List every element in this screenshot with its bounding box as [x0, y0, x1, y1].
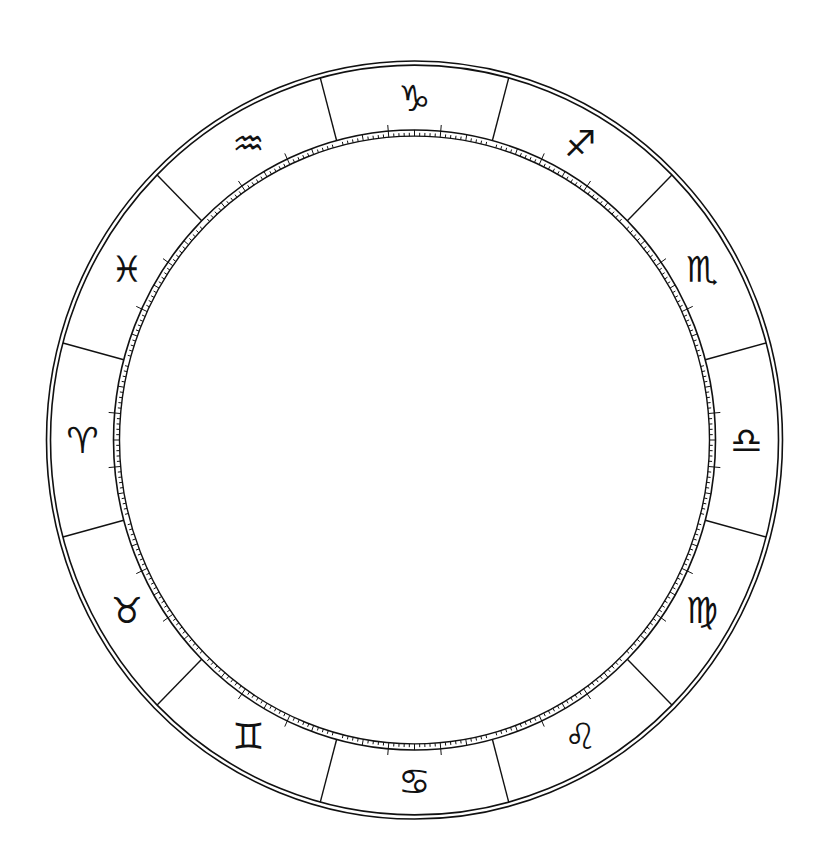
degree-tick	[207, 659, 209, 661]
degree-tick	[163, 614, 173, 621]
degree-tick	[270, 171, 272, 174]
gemini-glyph-icon: ♊︎	[232, 716, 264, 757]
degree-tick	[317, 727, 318, 730]
degree-tick	[184, 241, 189, 245]
degree-tick	[274, 708, 276, 711]
degree-tick	[215, 666, 217, 669]
degree-tick	[562, 703, 565, 708]
degree-tick	[705, 493, 711, 494]
degree-tick	[703, 376, 706, 377]
degree-tick	[634, 234, 636, 236]
degree-tick	[619, 659, 621, 661]
degree-tick	[670, 592, 675, 595]
zodiac-wheel: ♑︎♐︎♏︎♎︎♍︎♌︎♋︎♊︎♉︎♈︎♓︎♒︎	[0, 0, 829, 859]
degree-tick	[211, 215, 213, 217]
degree-tick	[653, 619, 656, 621]
degree-tick	[665, 277, 668, 279]
sector-divider	[492, 78, 508, 141]
degree-tick	[656, 259, 666, 266]
degree-tick	[388, 743, 389, 755]
degree-tick	[183, 631, 186, 633]
aries-glyph-icon: ♈︎	[66, 420, 98, 461]
degree-tick	[534, 718, 535, 721]
degree-tick	[688, 554, 691, 555]
degree-tick	[279, 166, 280, 169]
degree-tick	[176, 623, 179, 625]
degree-tick	[616, 662, 618, 664]
degree-tick	[703, 503, 706, 504]
sector-divider	[705, 520, 766, 537]
degree-tick	[317, 149, 318, 152]
degree-tick	[584, 181, 591, 191]
degree-tick	[211, 662, 213, 664]
degree-tick	[362, 739, 363, 745]
degree-tick	[173, 259, 176, 261]
degree-tick	[686, 320, 689, 321]
degree-tick	[596, 679, 598, 682]
degree-tick	[667, 282, 670, 284]
degree-tick	[706, 392, 709, 393]
degree-tick	[630, 230, 632, 232]
sector-divider	[63, 343, 124, 360]
degree-tick	[118, 386, 124, 387]
degree-tick	[312, 149, 314, 155]
degree-tick	[131, 534, 134, 535]
degree-tick	[662, 273, 665, 275]
degree-tick	[653, 259, 656, 261]
degree-tick	[534, 159, 535, 162]
sector-divider	[627, 659, 672, 705]
degree-tick	[184, 635, 189, 639]
degree-tick	[388, 125, 389, 137]
degree-tick	[264, 172, 267, 177]
degree-tick	[231, 198, 233, 201]
degree-tick	[140, 559, 143, 560]
degree-tick	[183, 247, 186, 249]
degree-tick	[662, 605, 665, 607]
degree-tick	[553, 708, 555, 711]
degree-tick	[122, 498, 125, 499]
degree-tick	[196, 647, 198, 649]
sign-glyphs: ♑︎♐︎♏︎♎︎♍︎♌︎♋︎♊︎♉︎♈︎♓︎♒︎	[66, 78, 762, 803]
degree-tick	[659, 610, 662, 612]
degree-tick	[189, 238, 191, 240]
degree-tick	[562, 172, 565, 177]
degree-tick	[677, 301, 680, 303]
degree-tick	[303, 722, 304, 725]
degree-tick	[164, 273, 167, 275]
degree-tick	[284, 713, 285, 716]
degree-tick	[248, 185, 250, 188]
degree-tick	[440, 743, 441, 755]
degree-tick	[154, 587, 157, 589]
degree-tick	[215, 212, 217, 215]
degree-tick	[608, 669, 610, 672]
degree-tick	[221, 673, 225, 678]
degree-tick	[261, 177, 263, 180]
degree-tick	[132, 340, 135, 341]
degree-tick	[131, 345, 134, 346]
degree-tick	[647, 627, 650, 629]
wheel-rings	[47, 61, 783, 819]
degree-tick	[656, 614, 666, 621]
degree-tick	[665, 601, 668, 603]
degree-tick	[120, 488, 123, 489]
degree-tick	[525, 155, 526, 158]
degree-tick	[695, 534, 698, 535]
degree-tick	[252, 182, 254, 185]
degree-tick	[123, 503, 126, 504]
degree-tick	[123, 376, 126, 377]
degree-tick	[440, 125, 441, 137]
degree-tick	[200, 227, 202, 229]
degree-tick	[680, 305, 683, 306]
degree-tick	[566, 700, 568, 703]
degree-tick	[358, 738, 359, 741]
degree-tick	[368, 740, 369, 743]
degree-tick	[584, 689, 591, 699]
degree-tick	[690, 549, 693, 550]
degree-tick	[571, 698, 573, 701]
degree-tick	[708, 412, 720, 413]
degree-tick	[200, 651, 202, 653]
degree-tick	[553, 169, 555, 172]
sagittarius-glyph-icon: ♐︎	[564, 123, 596, 164]
degree-tick	[673, 291, 676, 293]
degree-tick	[659, 268, 662, 270]
